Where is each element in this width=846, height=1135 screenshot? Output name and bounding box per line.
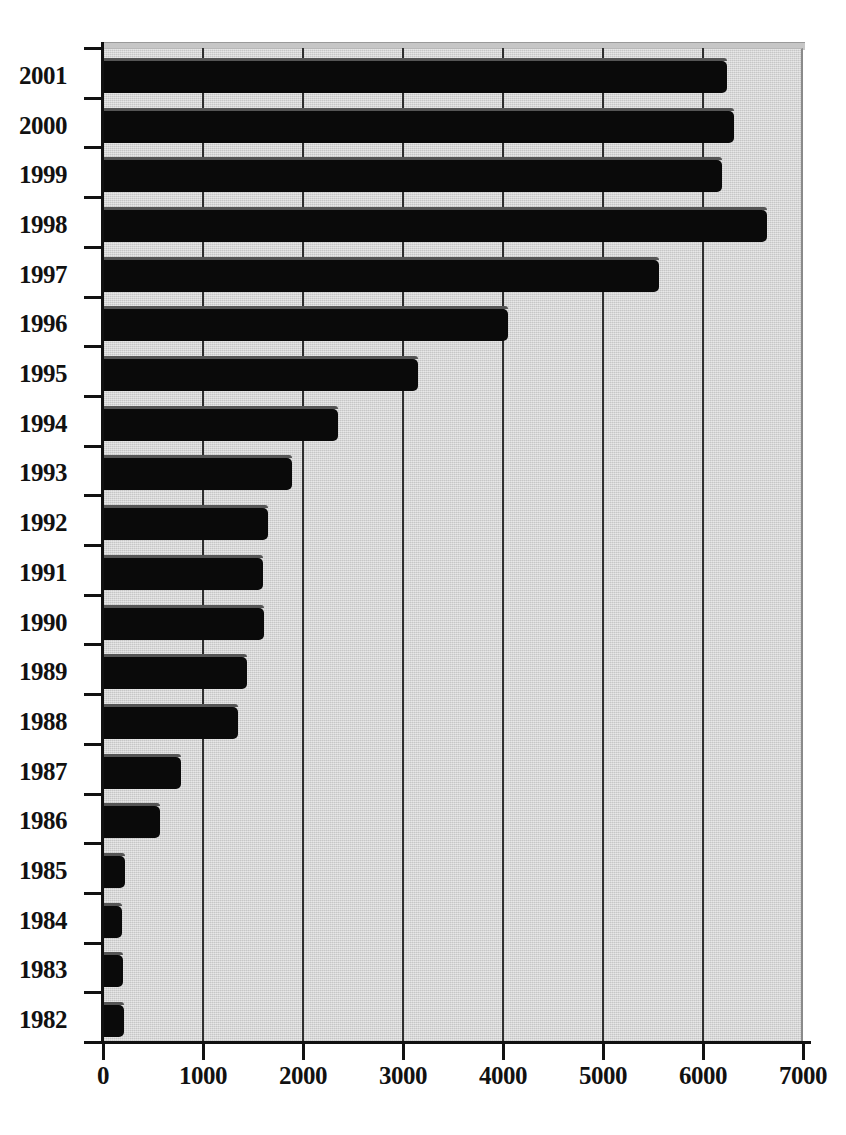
bar-1988: [103, 707, 238, 739]
y-tick-1997: [84, 246, 102, 249]
x-tick-5000: [602, 1044, 605, 1060]
x-tick-label-7000: 7000: [779, 1062, 827, 1090]
bar-1999: [103, 160, 722, 192]
bar-1982: [103, 1005, 124, 1037]
x-tick-2000: [302, 1044, 305, 1060]
bar-1995: [103, 359, 418, 391]
bar-1987: [103, 757, 181, 789]
y-tick-1988: [84, 693, 102, 696]
y-tick-1999: [84, 146, 102, 149]
y-tick-label-1997: 1997: [19, 261, 67, 289]
y-tick-label-1987: 1987: [19, 758, 67, 786]
bar-1991: [103, 558, 263, 590]
bar-1993: [103, 458, 292, 490]
x-tick-3000: [402, 1044, 405, 1060]
y-tick-label-1985: 1985: [19, 857, 67, 885]
bar-1989: [103, 657, 247, 689]
gridline-1000: [202, 48, 204, 1042]
y-tick-label-1989: 1989: [19, 658, 67, 686]
y-tick-1985: [84, 842, 102, 845]
bar-1997: [103, 260, 659, 292]
bar-1983: [103, 955, 123, 987]
bar-1996: [103, 309, 508, 341]
y-tick-label-1982: 1982: [19, 1006, 67, 1034]
y-tick-1996: [84, 296, 102, 299]
y-tick-label-1998: 1998: [19, 211, 67, 239]
gridline-5000: [602, 48, 604, 1042]
y-tick-1990: [84, 594, 102, 597]
y-tick-label-1993: 1993: [19, 459, 67, 487]
y-tick-label-1996: 1996: [19, 310, 67, 338]
bar-1984: [103, 906, 122, 938]
y-tick-2000: [84, 97, 102, 100]
gridline-4000: [502, 48, 504, 1042]
y-tick-label-2001: 2001: [19, 62, 67, 90]
y-tick-1994: [84, 395, 102, 398]
x-tick-0: [102, 1044, 105, 1060]
x-tick-7000: [802, 1044, 805, 1060]
y-tick-1989: [84, 643, 102, 646]
y-tick-1993: [84, 445, 102, 448]
bar-1992: [103, 508, 268, 540]
x-tick-label-2000: 2000: [279, 1062, 327, 1090]
y-tick-1983: [84, 942, 102, 945]
bar-2001: [103, 61, 727, 93]
gridline-3000: [402, 48, 404, 1042]
gridline-6000: [702, 48, 704, 1042]
bar-1998: [103, 210, 767, 242]
y-tick-1992: [84, 494, 102, 497]
bar-1990: [103, 608, 264, 640]
y-tick-label-1995: 1995: [19, 360, 67, 388]
y-tick-label-1999: 1999: [19, 161, 67, 189]
x-tick-6000: [702, 1044, 705, 1060]
x-tick-label-1000: 1000: [179, 1062, 227, 1090]
gridline-2000: [302, 48, 304, 1042]
y-tick-2001: [84, 47, 102, 50]
x-tick-label-0: 0: [97, 1062, 109, 1090]
x-tick-label-4000: 4000: [479, 1062, 527, 1090]
bar-2000: [103, 111, 734, 143]
y-tick-label-2000: 2000: [19, 112, 67, 140]
x-tick-1000: [202, 1044, 205, 1060]
y-tick-1986: [84, 793, 102, 796]
x-tick-label-6000: 6000: [679, 1062, 727, 1090]
y-tick-label-1983: 1983: [19, 956, 67, 984]
plot-area: [103, 48, 803, 1042]
y-tick-label-1994: 1994: [19, 410, 67, 438]
y-tick-1982: [84, 991, 102, 994]
y-tick-label-1990: 1990: [19, 609, 67, 637]
y-tick-1998: [84, 196, 102, 199]
x-tick-label-3000: 3000: [379, 1062, 427, 1090]
y-tick-baseline: [84, 1041, 102, 1044]
y-tick-label-1986: 1986: [19, 807, 67, 835]
bar-1994: [103, 409, 338, 441]
x-tick-label-5000: 5000: [579, 1062, 627, 1090]
y-tick-label-1992: 1992: [19, 509, 67, 537]
bar-1985: [103, 856, 125, 888]
y-tick-1995: [84, 345, 102, 348]
bar-chart: 01000200030004000500060007000 2001200019…: [0, 0, 846, 1135]
y-tick-1987: [84, 743, 102, 746]
y-tick-1991: [84, 544, 102, 547]
bar-1986: [103, 806, 160, 838]
y-tick-label-1991: 1991: [19, 559, 67, 587]
y-tick-1984: [84, 892, 102, 895]
y-tick-label-1988: 1988: [19, 708, 67, 736]
y-tick-label-1984: 1984: [19, 907, 67, 935]
x-tick-4000: [502, 1044, 505, 1060]
